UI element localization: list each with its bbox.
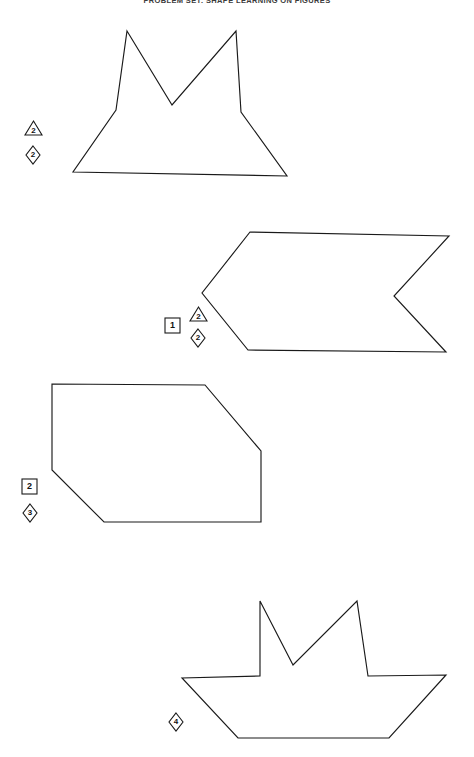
figure-1-diamond-badge-value: 2 bbox=[31, 151, 35, 159]
figure-3-square-badge-value: 2 bbox=[27, 482, 32, 491]
figure-3-square-badge: 2 bbox=[21, 478, 38, 495]
figure-1-triangle-badge-value: 2 bbox=[31, 122, 35, 135]
figure-1-triangle-badge: 2 bbox=[24, 120, 43, 136]
figure-2-square-badge-value: 1 bbox=[170, 321, 175, 330]
figures-canvas bbox=[0, 0, 474, 757]
figure-1-outline bbox=[73, 31, 287, 176]
figure-3-outline bbox=[52, 384, 261, 522]
worksheet-page: PROBLEM SET: SHAPE LEARNING ON FIGURES 2… bbox=[0, 0, 474, 757]
figure-2-outline bbox=[202, 232, 449, 352]
figure-4-diamond-badge: 4 bbox=[168, 712, 184, 732]
figure-2-diamond-badge-value: 2 bbox=[196, 334, 200, 342]
figure-2-triangle-badge-value: 2 bbox=[196, 308, 200, 321]
figure-2-diamond-badge: 2 bbox=[190, 328, 206, 348]
figure-1-diamond-badge: 2 bbox=[25, 145, 41, 165]
figure-4-diamond-badge-value: 4 bbox=[174, 718, 178, 726]
figure-4-outline bbox=[182, 601, 446, 738]
figure-3-diamond-badge-value: 3 bbox=[28, 509, 32, 517]
figure-2-triangle-badge: 2 bbox=[189, 306, 208, 322]
figure-2-square-badge: 1 bbox=[164, 317, 181, 334]
figure-3-diamond-badge: 3 bbox=[22, 503, 38, 523]
